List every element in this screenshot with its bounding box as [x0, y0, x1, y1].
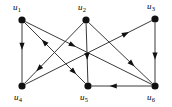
vertex-label-subscript: 5 [85, 96, 88, 103]
graph-vertex-u1 [18, 16, 25, 23]
directed-graph-figure: u1u2u3u4u5u6 [0, 0, 172, 107]
vertex-label-base: u [147, 92, 152, 102]
vertex-label-subscript: 1 [18, 6, 21, 13]
vertex-label-subscript: 4 [19, 96, 22, 103]
graph-edge [89, 22, 153, 83]
edge-arrowhead [68, 41, 76, 47]
vertex-label-u4: u4 [14, 93, 22, 102]
vertex-label-subscript: 6 [152, 96, 155, 103]
vertex-label-subscript: 3 [152, 5, 155, 12]
graph-vertex-u3 [151, 15, 158, 22]
graph-vertex-u6 [151, 82, 158, 89]
vertex-label-u5: u5 [80, 93, 88, 102]
vertex-label-base: u [78, 2, 83, 12]
edge-arrowhead [152, 52, 157, 59]
graph-vertex-u4 [18, 82, 25, 89]
vertex-label-u1: u1 [13, 3, 21, 12]
vertex-label-u3: u3 [147, 2, 155, 11]
graph-vertex-u2 [82, 16, 89, 23]
vertex-label-base: u [80, 92, 85, 102]
edge-arrowhead [121, 32, 129, 38]
vertex-label-u6: u6 [147, 93, 155, 102]
arrowhead-layer [19, 32, 157, 89]
vertex-label-base: u [13, 2, 18, 12]
graph-vertex-u5 [84, 82, 91, 89]
edge-arrowhead [84, 53, 89, 60]
vertex-label-u2: u2 [78, 3, 86, 12]
edge-arrowhead [19, 43, 24, 50]
graph-canvas [0, 0, 172, 107]
vertex-label-base: u [147, 1, 152, 11]
vertex-label-subscript: 2 [83, 6, 86, 13]
vertex-label-base: u [14, 92, 19, 102]
edge-arrowhead [110, 83, 117, 88]
